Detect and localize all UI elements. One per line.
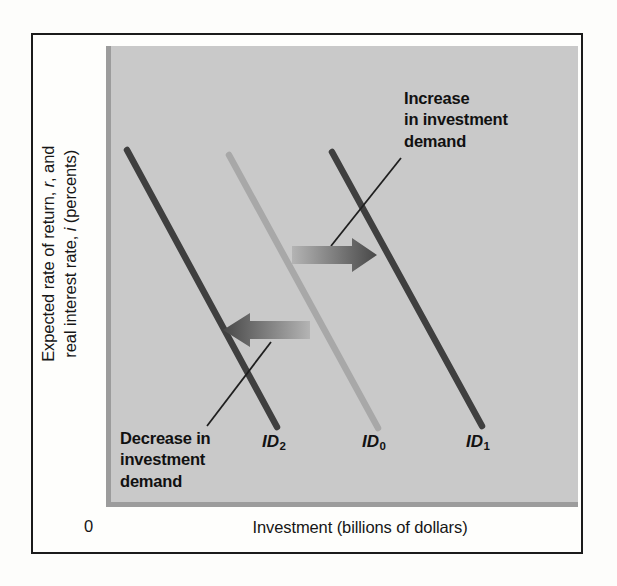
decrease-arrow <box>223 313 310 347</box>
increase-annotation-line1: Increase <box>404 88 508 109</box>
increase-arrow <box>292 238 377 272</box>
increase-annotation-line3: demand <box>404 131 508 152</box>
curve-label-id1-base: ID <box>466 432 483 451</box>
curve-label-id0-base: ID <box>362 432 379 451</box>
decrease-annotation-line2: investment <box>120 449 210 470</box>
increase-annotation-line2: in investment <box>404 109 508 130</box>
decrease-annotation: Decrease in investment demand <box>120 428 210 492</box>
y-axis-label: Expected rate of return, r, and real int… <box>38 89 82 419</box>
y-axis-label-line2: real interest rate, i (percents) <box>60 89 82 419</box>
curve-label-id2: ID2 <box>262 432 285 452</box>
curve-label-id0: ID0 <box>362 432 385 452</box>
curve-label-id1: ID1 <box>466 432 489 452</box>
curve-label-id1-sub: 1 <box>484 440 490 452</box>
increase-annotation: Increase in investment demand <box>404 88 508 152</box>
investment-demand-figure: Expected rate of return, r, and real int… <box>0 0 617 586</box>
curve-label-id2-base: ID <box>262 432 279 451</box>
y-axis-label-line1: Expected rate of return, r, and <box>38 89 60 419</box>
chart-canvas <box>0 0 617 586</box>
decrease-annotation-line1: Decrease in <box>120 428 210 449</box>
origin-label: 0 <box>84 517 93 536</box>
curve-label-id0-sub: 0 <box>380 440 386 452</box>
curve-label-id2-sub: 2 <box>280 440 286 452</box>
decrease-annotation-line3: demand <box>120 471 210 492</box>
curve-id2 <box>127 150 277 427</box>
x-axis-label: Investment (billions of dollars) <box>160 518 560 537</box>
